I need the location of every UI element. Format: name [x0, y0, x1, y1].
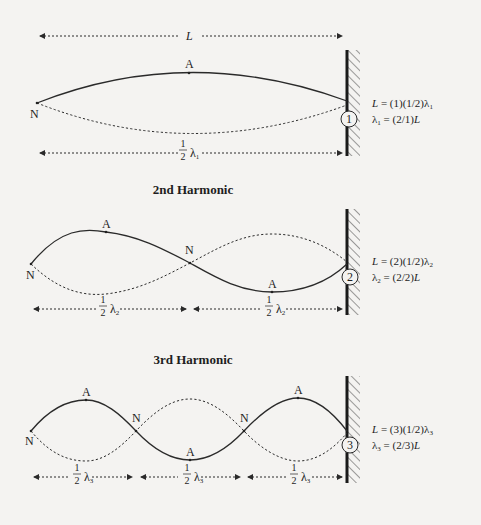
node-label: N: [132, 411, 141, 425]
wave-solid: [37, 72, 347, 103]
svg-text:1: 1: [185, 462, 190, 473]
svg-text:2: 2: [267, 307, 272, 318]
equation-wavelength: λ1 = (2/1)L: [372, 113, 420, 127]
harmonic-badge-3: 3: [342, 437, 358, 453]
equation-length: L = (1)(1/2)λ1: [371, 97, 433, 111]
svg-text:λ3: λ3: [301, 470, 311, 485]
svg-text:1: 1: [292, 462, 297, 473]
svg-text:λ1: λ1: [190, 146, 200, 161]
svg-text:λ3: λ3: [194, 470, 204, 485]
svg-text:λ3: λ3: [84, 470, 94, 485]
svg-text:2: 2: [292, 475, 297, 486]
length-arrow: L: [40, 29, 342, 43]
harmonic-title: 2nd Harmonic: [153, 182, 234, 197]
antinode-label: A: [82, 385, 91, 399]
svg-text:1: 1: [267, 294, 272, 305]
antinode-label: A: [268, 277, 277, 291]
equation-length: L = (2)(1/2)λ2: [371, 255, 433, 269]
svg-text:2: 2: [347, 270, 353, 284]
antinode-label: A: [186, 445, 195, 459]
svg-text:2: 2: [185, 475, 190, 486]
harmonic-title: 3rd Harmonic: [153, 352, 232, 367]
svg-text:2: 2: [181, 151, 186, 162]
fixed-wall: [347, 50, 360, 156]
svg-text:3: 3: [347, 438, 353, 452]
svg-text:2: 2: [101, 307, 106, 318]
svg-text:λ2: λ2: [276, 302, 286, 317]
half-wavelength-arrow: 1 2 λ2: [34, 294, 186, 318]
svg-text:1: 1: [75, 462, 80, 473]
fixed-wall: [347, 209, 360, 315]
antinode-label: A: [102, 217, 111, 231]
svg-text:λ2: λ2: [110, 302, 120, 317]
half-wavelength-arrow: 1 2 λ3: [141, 462, 240, 486]
svg-text:2: 2: [75, 475, 80, 486]
harmonic-1: L N A 1 L = (1)(1/2)λ1 λ1 = (2/1)L 1 2: [30, 29, 433, 162]
node-label: N: [26, 268, 35, 282]
svg-text:1: 1: [346, 112, 352, 126]
harmonic-2: 2nd Harmonic N A N A 2 L = (2)(1/2)λ2 λ2…: [26, 182, 433, 318]
harmonic-badge-1: 1: [341, 111, 357, 127]
equation-wavelength: λ2 = (2/2)L: [372, 271, 420, 285]
fixed-wall: [347, 376, 360, 483]
node-label: N: [185, 243, 194, 257]
harmonic-badge-2: 2: [342, 269, 358, 285]
svg-text:1: 1: [101, 294, 106, 305]
equation-length: L = (3)(1/2)λ3: [371, 423, 433, 437]
node-label: N: [240, 411, 249, 425]
half-wavelength-arrow: 1 2 λ2: [194, 294, 342, 318]
wave-dashed: [37, 103, 347, 134]
svg-text:1: 1: [181, 138, 186, 149]
half-wavelength-arrow: 1 2 λ3: [248, 462, 342, 486]
antinode-label: A: [185, 57, 194, 71]
wave-solid: [31, 230, 347, 292]
antinode-label: A: [294, 383, 303, 397]
node-label: N: [25, 434, 34, 448]
equation-wavelength: λ3 = (2/3)L: [372, 439, 420, 453]
standing-waves-diagram: L N A 1 L = (1)(1/2)λ1 λ1 = (2/1)L 1 2: [0, 0, 481, 525]
half-wavelength-arrow: 1 2 λ3: [34, 462, 132, 486]
harmonic-3: 3rd Harmonic N A N A N A 3 L = (3)(1/2)λ…: [25, 352, 433, 486]
node-label: N: [30, 107, 39, 121]
length-label: L: [185, 29, 193, 43]
half-wavelength-arrow: 1 2 λ1: [40, 138, 342, 162]
